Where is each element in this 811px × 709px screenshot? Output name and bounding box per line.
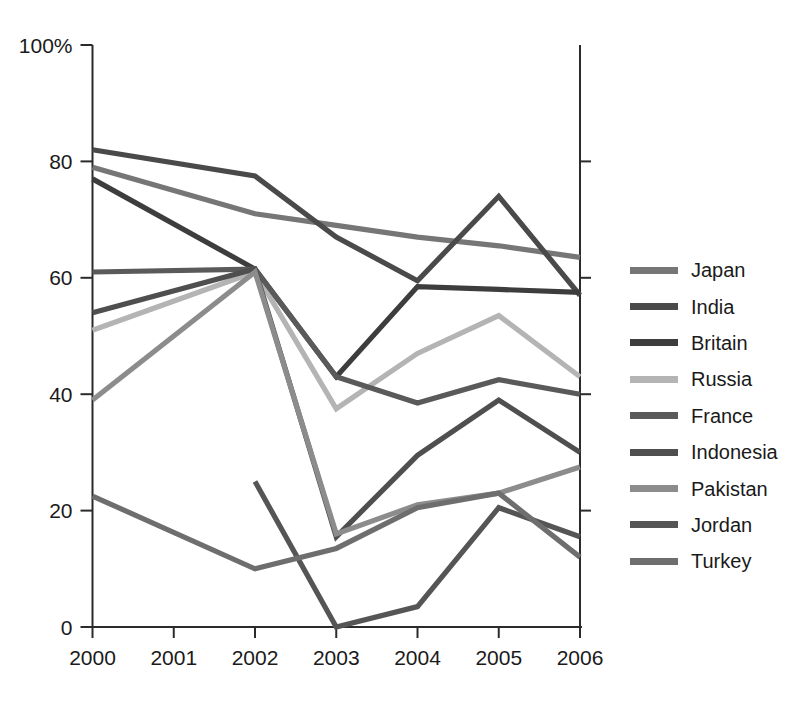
y-tick-label: 100% (19, 34, 73, 57)
legend-item-japan[interactable]: Japan (630, 252, 805, 288)
legend-swatch-icon (630, 267, 678, 274)
legend-item-label: Turkey (691, 551, 751, 571)
chart-series (93, 150, 581, 627)
x-tick-label: 2006 (557, 646, 604, 669)
legend-item-pakistan[interactable]: Pakistan (630, 470, 805, 506)
chart-tick-labels: 020406080100%200020012002200320042005200… (19, 34, 604, 670)
legend-swatch-icon (630, 339, 678, 346)
legend-item-france[interactable]: France (630, 398, 805, 434)
legend-item-label: Pakistan (691, 479, 768, 499)
legend-swatch-icon (630, 449, 678, 456)
x-tick-label: 2001 (150, 646, 197, 669)
legend-item-label: Jordan (691, 515, 752, 535)
legend-swatch-icon (630, 485, 678, 492)
legend-swatch-icon (630, 412, 678, 419)
legend-swatch-icon (630, 303, 678, 310)
legend-swatch-icon (630, 376, 678, 383)
y-tick-label: 60 (49, 266, 72, 289)
legend-item-label: Japan (691, 260, 746, 280)
x-tick-label: 2003 (313, 646, 360, 669)
legend-item-label: Russia (691, 369, 752, 389)
y-tick-label: 20 (49, 499, 72, 522)
legend-swatch-icon (630, 521, 678, 528)
x-tick-label: 2002 (232, 646, 279, 669)
legend-item-label: India (691, 297, 734, 317)
legend-item-russia[interactable]: Russia (630, 361, 805, 397)
legend-item-india[interactable]: India (630, 288, 805, 324)
series-line-japan (93, 167, 581, 257)
legend-item-label: France (691, 406, 753, 426)
y-tick-label: 80 (49, 150, 72, 173)
legend-swatch-icon (630, 558, 678, 565)
legend-item-label: Indonesia (691, 442, 778, 462)
legend-item-jordan[interactable]: Jordan (630, 507, 805, 543)
y-tick-label: 0 (61, 616, 73, 639)
x-tick-label: 2005 (475, 646, 522, 669)
chart-legend: JapanIndiaBritainRussiaFranceIndonesiaPa… (630, 252, 805, 580)
y-tick-label: 40 (49, 383, 72, 406)
line-chart-figure: 020406080100%200020012002200320042005200… (0, 0, 811, 709)
x-tick-label: 2000 (69, 646, 116, 669)
x-tick-label: 2004 (394, 646, 441, 669)
legend-item-indonesia[interactable]: Indonesia (630, 434, 805, 470)
legend-item-turkey[interactable]: Turkey (630, 543, 805, 579)
legend-item-label: Britain (691, 333, 748, 353)
legend-item-britain[interactable]: Britain (630, 325, 805, 361)
series-line-india (93, 150, 581, 296)
